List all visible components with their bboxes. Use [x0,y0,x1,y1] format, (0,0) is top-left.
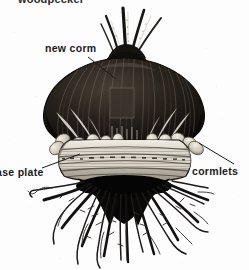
label-cormlets: cormlets [192,166,238,177]
label-base-plate: ase plate [0,167,44,178]
clipped-caption-clip: woodpecker [18,0,88,6]
label-new-corm: new corm [45,43,96,54]
clipped-caption-text: woodpecker [18,0,84,5]
corm-diagram-figure: woodpecker new corm ase plate cormlets [0,0,249,270]
leader-cormlets [199,143,234,164]
root-system [28,175,214,268]
corm-illustration [0,0,249,270]
